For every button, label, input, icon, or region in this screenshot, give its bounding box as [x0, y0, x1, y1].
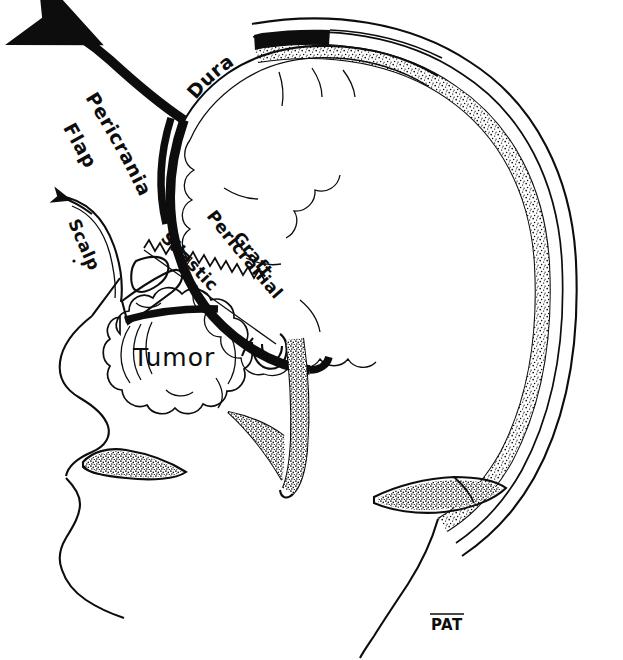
artist-signature: PAT	[430, 614, 464, 634]
label-tumor: Tumor	[132, 343, 215, 372]
figure-canvas: Pericranial Flap Scalp Dura Silastic Per…	[0, 0, 623, 660]
craniofacial-resection-illustration: Pericranial Flap Scalp Dura Silastic Per…	[0, 0, 623, 660]
signature-text: PAT	[431, 616, 463, 634]
